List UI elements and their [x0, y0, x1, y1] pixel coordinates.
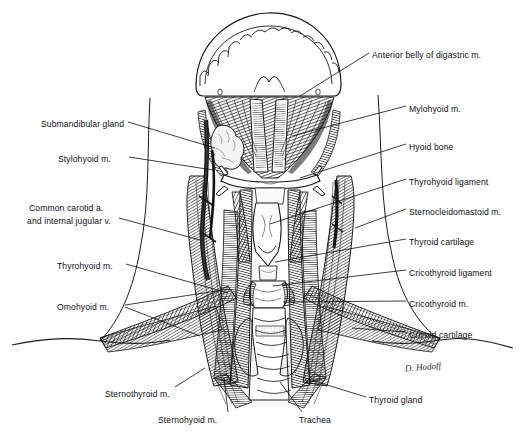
leader-hyoid-bone — [300, 144, 406, 178]
label-thyroid-gland: Thyroid gland — [369, 395, 422, 406]
anatomy-figure: Anterior belly of digastric m.Mylohyoid … — [0, 0, 525, 445]
cricothyroid-ligament — [259, 266, 277, 280]
label-cricoid-cartilage: Cricoid cartilage — [409, 330, 472, 341]
label-thyrohyoid-muscle: Thyrohyoid m. — [57, 261, 113, 272]
thyrohyoid-ligament — [255, 188, 285, 204]
leader-sternothyroid — [175, 368, 205, 387]
mandible — [196, 13, 341, 96]
label-common-carotid-line1: Common carotid a. — [29, 203, 103, 214]
label-cricothyroid-muscle: Cricothyroid m. — [409, 299, 468, 310]
thyroid-cartilage — [253, 203, 281, 266]
label-submandibular-gland: Submandibular gland — [41, 119, 124, 130]
label-cricothyroid-ligament: Cricothyroid ligament — [409, 268, 492, 279]
label-thyroid-cartilage: Thyroid cartilage — [409, 237, 474, 248]
label-common-carotid-line2: and internal jugular v. — [27, 216, 111, 227]
label-mylohyoid: Mylohyoid m. — [409, 104, 461, 115]
label-omohyoid: Omohyoid m. — [57, 302, 109, 313]
label-anterior-belly-digastric: Anterior belly of digastric m. — [372, 50, 481, 61]
label-sternocleidomastoid: Sternocleidomastoid m. — [409, 207, 501, 218]
label-thyrohyoid-ligament: Thyrohyoid ligament — [409, 177, 488, 188]
leader-sternocleidomastoid — [355, 209, 406, 228]
label-stylohyoid: Stylohyoid m. — [58, 154, 111, 165]
label-sternohyoid: Sternohyoid m. — [158, 415, 217, 426]
label-trachea: Trachea — [299, 415, 331, 426]
leader-stylohyoid — [129, 157, 213, 170]
label-hyoid-bone: Hyoid bone — [409, 142, 453, 153]
label-sternothyroid: Sternothyroid m. — [105, 389, 170, 400]
